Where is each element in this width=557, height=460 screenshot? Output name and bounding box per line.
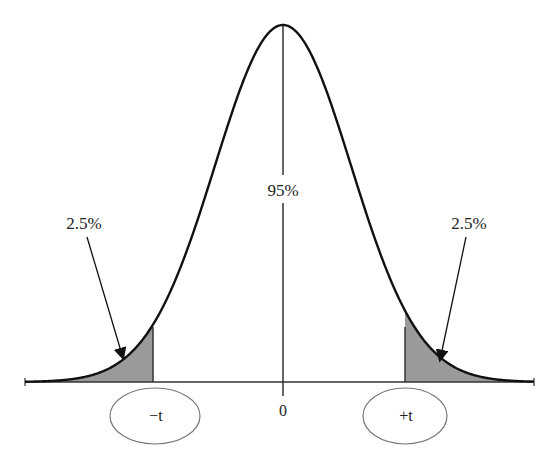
right-tail-percent-label: 2.5% bbox=[451, 214, 486, 233]
left-tail-percent-label: 2.5% bbox=[66, 214, 101, 233]
left-tail-arrow bbox=[87, 237, 123, 358]
right-tail-shaded-region bbox=[405, 311, 534, 382]
zero-label: 0 bbox=[279, 402, 287, 419]
right-tail-arrow bbox=[440, 237, 466, 360]
left-tail-shaded-region bbox=[25, 325, 153, 382]
pos-t-label: +t bbox=[399, 407, 413, 424]
t-distribution-diagram: 95% 2.5% 2.5% −t 0 +t bbox=[0, 0, 557, 460]
center-percent-label: 95% bbox=[267, 181, 298, 200]
distribution-curve bbox=[25, 25, 534, 382]
neg-t-label: −t bbox=[149, 407, 163, 424]
